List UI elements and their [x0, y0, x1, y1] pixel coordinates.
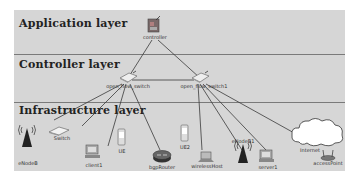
server1-label: server1 — [258, 164, 277, 170]
internet-label: Internet — [300, 147, 320, 153]
open-flow-switch1-label: open_flow_switch1 — [181, 83, 228, 89]
switch-icon — [119, 70, 139, 84]
enodeb-label: eNodeB — [18, 160, 38, 166]
client1-label: client1 — [86, 162, 103, 168]
mobile-phone-icon — [180, 124, 190, 142]
ue-node — [117, 128, 127, 150]
switch-icon — [191, 70, 211, 84]
computer-icon — [258, 149, 276, 163]
enodeb-node — [16, 122, 38, 152]
computer-icon — [84, 144, 102, 160]
accesspoint-label: accessPoint — [313, 160, 342, 166]
ue2-label: UE2 — [180, 144, 190, 150]
server-icon — [147, 16, 161, 34]
cloud-icon — [289, 116, 347, 150]
cell-tower-icon — [16, 122, 38, 148]
enodeb1-label: eNodeB1 — [232, 138, 255, 144]
wirelesshost-label: wirelessHost — [191, 163, 223, 169]
client1-node — [84, 144, 102, 164]
laptop-icon — [197, 151, 215, 163]
open-flow-switch-label: open_flow_switch — [106, 83, 150, 89]
ue-label: UE — [119, 148, 126, 154]
mobile-phone-icon — [117, 128, 127, 146]
router-icon — [152, 149, 172, 163]
bgprouter-label: bgpRouter — [149, 164, 175, 170]
switch-label: Switch — [54, 135, 71, 141]
sdn-architecture-diagram: Application layer Controller layer Infra… — [14, 10, 345, 171]
controller-label: controller — [143, 34, 167, 40]
ue2-node — [180, 124, 190, 146]
